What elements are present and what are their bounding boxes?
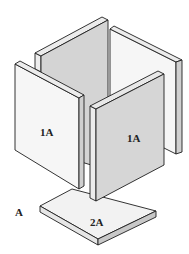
label-2a: 2A [90,216,104,228]
label-1a-right: 1A [127,132,141,144]
panel-assembly-diagram: 1A 1A 2A A [0,0,189,254]
label-1a-left: 1A [40,126,54,138]
figure-label: A [15,206,23,218]
